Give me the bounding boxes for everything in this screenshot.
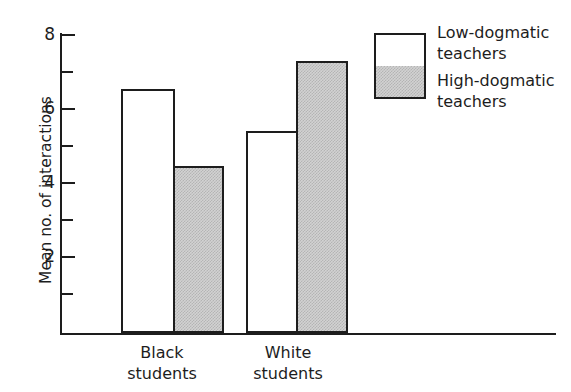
y-axis-tick-label-4-wrap: 4: [33, 174, 55, 191]
y-axis-tick-4: [62, 182, 75, 184]
group-label-line2: students: [239, 363, 337, 384]
group-label-line1: Black: [113, 342, 211, 363]
legend-label-low-dogmatic: Low-dogmatic teachers: [437, 22, 549, 64]
y-axis-tick-label-6-wrap: 6: [33, 100, 55, 117]
bar-white-students-low-dogmatic: [246, 131, 298, 333]
legend-label-line1: High-dogmatic: [437, 70, 555, 91]
y-axis-tick-3: [62, 219, 73, 221]
x-axis-group-label-black-students: Black students: [113, 342, 211, 384]
bar-white-students-high-dogmatic: [296, 61, 348, 333]
y-axis-tick-label-6: 6: [35, 100, 55, 117]
x-axis-group-label-white-students: White students: [239, 342, 337, 384]
x-axis-line: [60, 333, 556, 335]
legend-swatch-box: [374, 33, 426, 99]
bar-black-students-high-dogmatic: [173, 166, 224, 333]
bar-chart-figure: Mean no. of interactions 8 6 4 2 Black s…: [0, 0, 571, 392]
legend-label-line2: teachers: [437, 91, 555, 112]
y-axis-tick-label-2: 2: [35, 248, 55, 265]
y-axis-tick-7: [62, 71, 73, 73]
legend-label-high-dogmatic: High-dogmatic teachers: [437, 70, 555, 112]
legend-label-line1: Low-dogmatic: [437, 22, 549, 43]
legend-swatch-high-dogmatic: [376, 66, 424, 97]
legend-label-line2: teachers: [437, 43, 549, 64]
group-label-line2: students: [113, 363, 211, 384]
y-axis-tick-label-2-wrap: 2: [33, 248, 55, 265]
bar-black-students-low-dogmatic: [121, 89, 175, 333]
y-axis-tick-label-4: 4: [35, 174, 55, 191]
group-label-line1: White: [239, 342, 337, 363]
y-axis-tick-label-8: 8: [35, 26, 55, 43]
y-axis-tick-1: [62, 293, 73, 295]
y-axis-tick-6: [62, 108, 75, 110]
y-axis-tick-5: [62, 145, 73, 147]
y-axis-tick-2: [62, 256, 75, 258]
y-axis-tick-label-8-wrap: 8: [33, 26, 55, 43]
legend-swatch-low-dogmatic: [376, 35, 424, 68]
y-axis-tick-8: [62, 34, 75, 36]
y-axis-line: [60, 33, 62, 335]
